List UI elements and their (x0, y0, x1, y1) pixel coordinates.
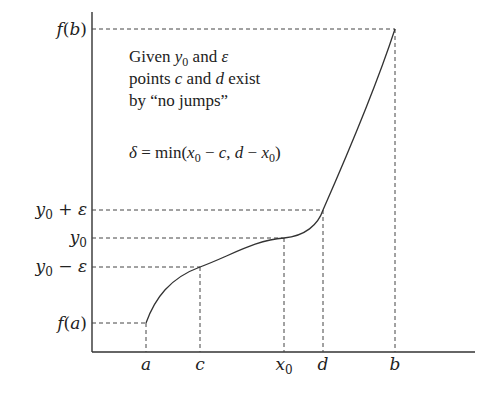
diagram-canvas: Given y0 and ε points c and d exist by “… (0, 0, 498, 397)
x-label-b: b (390, 354, 401, 374)
annotation-line-3: by “no jumps” (129, 91, 228, 110)
y-label-y0-plus-eps: y0 + ε (35, 199, 87, 222)
x-label-x0: x0 (275, 354, 292, 377)
delta-formula: δ = min(x0 − c, d − x0) (129, 143, 281, 165)
x-label-a: a (141, 354, 151, 374)
y-label-y0: y0 (69, 227, 87, 250)
y-label-fa: f(a) (55, 313, 87, 333)
y-label-fb: f(b) (55, 19, 87, 39)
annotation-line-1: Given y0 and ε (129, 47, 228, 69)
x-label-c: c (195, 354, 205, 374)
annotation-line-2: points c and d exist (129, 69, 261, 88)
y-label-y0-minus-eps: y0 − ε (35, 256, 87, 279)
x-label-d: d (318, 354, 329, 374)
